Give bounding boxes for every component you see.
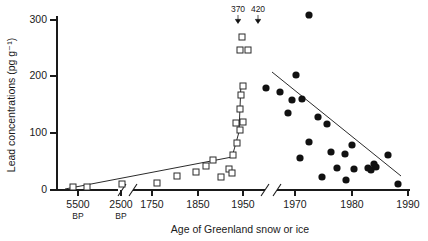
data-point-open-square	[239, 34, 245, 40]
data-point-open-square	[174, 173, 180, 179]
x-tick-label-1850: 1850	[186, 198, 210, 210]
data-point-filled-circle	[372, 163, 379, 170]
x-tick-label-1980: 1980	[340, 198, 364, 210]
offscale-arrow-icon	[235, 15, 240, 23]
trend-line-modern-decline-regression	[272, 72, 401, 176]
data-point-filled-circle	[327, 148, 334, 155]
data-point-open-square	[70, 184, 76, 190]
y-axis-ticks	[50, 20, 57, 190]
data-point-open-square	[238, 92, 244, 98]
trend-line-historic-rise	[65, 83, 241, 189]
x-tick-label-5500bp: 5500	[66, 198, 90, 210]
data-point-open-square	[237, 106, 243, 112]
data-point-filled-circle	[384, 151, 391, 158]
data-point-filled-circle	[305, 11, 312, 18]
data-point-open-square	[237, 127, 243, 133]
offscale-annotation-420: 420	[251, 4, 265, 14]
data-point-open-square	[233, 120, 239, 126]
x-tick-label-1990: 1990	[396, 198, 420, 210]
x-tick-label-1750: 1750	[140, 198, 164, 210]
data-point-filled-circle	[296, 154, 303, 161]
data-point-filled-circle	[276, 88, 283, 95]
data-point-filled-circle	[323, 120, 330, 127]
offscale-arrow-icon	[255, 15, 260, 23]
data-point-open-square	[203, 163, 209, 169]
data-point-open-square	[154, 180, 160, 186]
x-axis-segment-ancient: 5500 BP 2500 BP	[57, 184, 133, 221]
data-point-filled-circle	[292, 71, 299, 78]
offscale-annotation-370: 370	[231, 4, 245, 14]
data-point-filled-circle	[298, 95, 305, 102]
x-tick-label-1950: 1950	[231, 198, 255, 210]
data-point-filled-circle	[262, 84, 269, 91]
x-tick-label-1970: 1970	[283, 198, 307, 210]
data-point-open-square	[240, 119, 246, 125]
data-point-open-square	[193, 169, 199, 175]
x-axis-title: Age of Greenland snow or ice	[171, 223, 309, 235]
lead-concentration-figure: 0 100 200 300 Lead concentrations (pg g⁻…	[0, 0, 428, 241]
x-axis-segment-historic: 1750 1850 1950	[129, 184, 269, 210]
data-points-layer	[70, 11, 402, 190]
data-point-filled-circle	[305, 138, 312, 145]
data-point-filled-circle	[342, 176, 349, 183]
data-point-filled-circle	[394, 180, 401, 187]
data-point-open-square	[229, 170, 235, 176]
data-point-open-square	[84, 184, 90, 190]
annotation-layer: 370420	[231, 4, 265, 23]
data-point-open-square	[245, 47, 251, 53]
y-tick-label-0: 0	[41, 183, 47, 195]
series-0	[70, 34, 251, 190]
data-point-filled-circle	[348, 141, 355, 148]
y-axis-title: Lead concentrations (pg g⁻¹)	[5, 38, 17, 172]
data-point-open-square	[210, 157, 216, 163]
x-tick-sublabel-5500bp: BP	[72, 211, 84, 221]
data-point-filled-circle	[333, 164, 340, 171]
data-point-open-square	[240, 83, 246, 89]
data-point-open-square	[119, 181, 125, 187]
data-point-filled-circle	[288, 96, 295, 103]
x-tick-sublabel-2500bp: BP	[115, 211, 127, 221]
data-point-open-square	[218, 174, 224, 180]
y-tick-label-200: 200	[29, 69, 47, 81]
chart-canvas: 0 100 200 300 Lead concentrations (pg g⁻…	[0, 0, 428, 241]
y-axis: 0 100 200 300 Lead concentrations (pg g⁻…	[5, 13, 57, 195]
y-tick-label-300: 300	[29, 13, 47, 25]
x-tick-label-2500bp: 2500	[109, 198, 133, 210]
data-point-open-square	[234, 140, 240, 146]
data-point-filled-circle	[318, 173, 325, 180]
data-point-filled-circle	[350, 165, 357, 172]
y-tick-label-100: 100	[29, 126, 47, 138]
data-point-filled-circle	[314, 113, 321, 120]
data-point-filled-circle	[284, 109, 291, 116]
data-point-open-square	[237, 47, 243, 53]
x-axis-segment-modern: 1970 1980 1990	[273, 184, 420, 210]
data-point-filled-circle	[341, 150, 348, 157]
series-1	[262, 11, 401, 187]
data-point-open-square	[230, 152, 236, 158]
